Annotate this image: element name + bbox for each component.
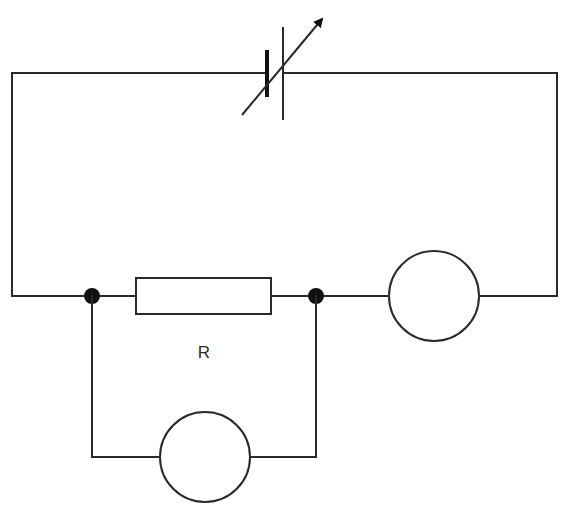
series-meter	[389, 251, 479, 341]
parallel-meter	[160, 412, 250, 502]
main-loop-wires	[12, 73, 557, 296]
resistor-body	[136, 278, 271, 314]
parallel-right-wire	[250, 296, 316, 457]
circuit-diagram: R	[0, 0, 569, 512]
variable-supply-icon	[242, 19, 322, 120]
resistor: R	[136, 278, 271, 362]
top-left-wire	[12, 73, 267, 296]
parallel-left-wire	[92, 296, 160, 457]
resistor-label: R	[198, 343, 210, 362]
